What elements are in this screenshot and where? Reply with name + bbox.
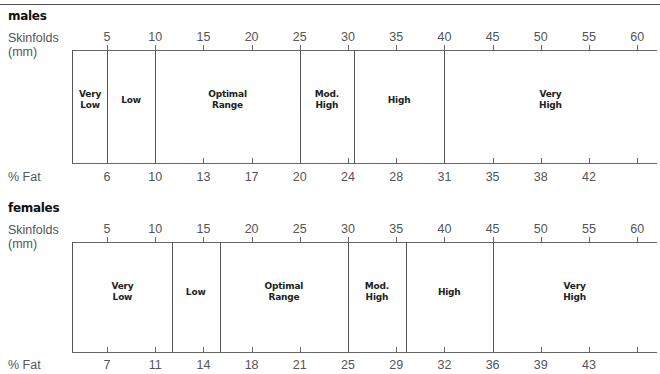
zone-divider	[406, 242, 407, 352]
chart-left-border	[72, 50, 73, 163]
males-title: males	[8, 9, 47, 23]
fat-tick-label: 28	[389, 170, 403, 184]
fat-tick	[203, 347, 204, 352]
skinfold-tick	[541, 237, 542, 242]
zone-label: Low	[186, 287, 206, 298]
fat-tick	[107, 347, 108, 352]
skinfold-tick-label: 15	[196, 30, 210, 44]
skinfold-tick	[637, 237, 638, 242]
fat-tick-label: 6	[104, 170, 111, 184]
skinfold-tick-label: 45	[486, 222, 500, 236]
fat-tick	[396, 347, 397, 352]
fat-tick	[589, 158, 590, 163]
fat-tick	[541, 158, 542, 163]
skinfold-tick-label: 50	[534, 30, 548, 44]
fat-axis-line	[72, 163, 657, 164]
fat-tick-label: 7	[104, 358, 111, 372]
skinfold-tick-label: 20	[245, 30, 259, 44]
skinfold-tick	[589, 45, 590, 50]
skinfold-tick	[252, 237, 253, 242]
skinfolds-label-line2: (mm)	[8, 237, 59, 251]
skinfold-tick	[348, 45, 349, 50]
females-title: females	[8, 201, 59, 215]
fat-tick-label: 13	[196, 170, 210, 184]
skinfold-tick	[203, 45, 204, 50]
skinfold-tick-label: 45	[486, 30, 500, 44]
skinfold-tick-label: 40	[437, 222, 451, 236]
zone-divider	[493, 242, 494, 352]
zone-label: Mod. High	[365, 281, 389, 303]
skinfold-tick-label: 15	[196, 222, 210, 236]
zone-label: Very High	[539, 89, 562, 111]
fat-tick-label: 24	[341, 170, 355, 184]
fat-tick-label: 18	[245, 358, 259, 372]
fat-tick-label: 10	[148, 170, 162, 184]
fat-tick	[155, 347, 156, 352]
fat-tick	[252, 158, 253, 163]
fat-tick-label: 17	[245, 170, 259, 184]
males-skinfolds-label: Skinfolds (mm)	[8, 31, 59, 59]
zone-divider	[348, 242, 349, 352]
zone-label: Very Low	[79, 89, 101, 111]
skinfold-tick-label: 50	[534, 222, 548, 236]
fat-tick	[444, 347, 445, 352]
skinfold-tick	[541, 45, 542, 50]
skinfold-tick	[396, 45, 397, 50]
skinfold-tick-label: 55	[582, 222, 596, 236]
skinfold-axis-line	[72, 50, 657, 51]
fat-tick	[637, 347, 638, 352]
skinfolds-label-line2: (mm)	[8, 45, 59, 59]
skinfold-tick	[493, 45, 494, 50]
skinfold-tick	[589, 237, 590, 242]
zone-label: High	[388, 95, 411, 106]
fat-tick-label: 25	[341, 358, 355, 372]
skinfold-tick	[203, 237, 204, 242]
fat-tick-label: 14	[196, 358, 210, 372]
fat-tick-label: 21	[293, 358, 307, 372]
fat-tick-label: 42	[582, 170, 596, 184]
skinfold-tick	[637, 45, 638, 50]
zone-label: Very High	[563, 281, 586, 303]
skinfold-tick-label: 30	[341, 222, 355, 236]
skinfold-tick-label: 5	[104, 222, 111, 236]
skinfold-tick-label: 10	[148, 222, 162, 236]
fat-tick-label: 11	[149, 358, 162, 372]
fat-tick-label: 38	[534, 170, 548, 184]
skinfold-tick-label: 25	[293, 30, 307, 44]
fat-tick	[252, 347, 253, 352]
fat-tick-label: 39	[534, 358, 548, 372]
top-rule	[0, 4, 660, 5]
fat-axis-line	[72, 352, 657, 353]
fat-tick	[300, 347, 301, 352]
fat-tick	[493, 158, 494, 163]
zone-label: High	[438, 287, 461, 298]
skinfold-tick-label: 55	[582, 30, 596, 44]
fat-tick-label: 35	[486, 170, 500, 184]
fat-tick	[203, 158, 204, 163]
zone-divider	[444, 50, 445, 163]
zone-divider	[220, 242, 221, 352]
skinfold-tick	[300, 237, 301, 242]
skinfolds-label-line1: Skinfolds	[8, 31, 59, 45]
fat-tick	[637, 158, 638, 163]
fat-tick-label: 32	[437, 358, 451, 372]
skinfold-tick-label: 60	[630, 30, 644, 44]
skinfold-tick-label: 25	[293, 222, 307, 236]
zone-divider	[172, 242, 173, 352]
fat-tick	[348, 158, 349, 163]
skinfold-tick	[252, 45, 253, 50]
skinfolds-label-line1: Skinfolds	[8, 223, 59, 237]
skinfold-tick-label: 10	[148, 30, 162, 44]
skinfold-tick	[107, 237, 108, 242]
skinfold-tick-label: 20	[245, 222, 259, 236]
skinfold-tick-label: 35	[389, 30, 403, 44]
males-fat-label: % Fat	[8, 170, 41, 184]
zone-divider	[354, 50, 355, 163]
skinfold-axis-line	[72, 242, 657, 243]
fat-tick	[589, 347, 590, 352]
females-fat-label: % Fat	[8, 358, 41, 372]
fat-tick	[541, 347, 542, 352]
zone-label: Optimal Range	[265, 281, 304, 303]
skinfold-tick-label: 30	[341, 30, 355, 44]
skinfold-tick	[396, 237, 397, 242]
